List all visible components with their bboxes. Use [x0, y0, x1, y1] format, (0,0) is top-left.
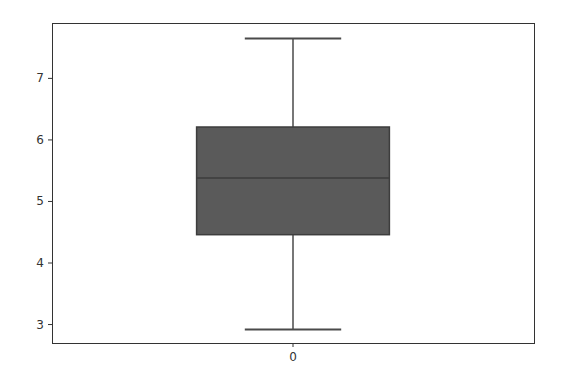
y-tick-label: 5 — [36, 194, 44, 208]
iqr-box — [197, 127, 390, 235]
x-axis: 0 — [289, 343, 297, 364]
x-tick-label: 0 — [289, 350, 297, 364]
box-plot: 34567 0 — [0, 0, 562, 379]
y-tick-label: 7 — [36, 71, 44, 85]
y-tick-label: 4 — [36, 256, 44, 270]
plot-area — [197, 38, 390, 329]
box-series-0 — [197, 38, 390, 329]
y-tick-label: 6 — [36, 133, 44, 147]
y-axis: 34567 — [36, 71, 52, 331]
y-tick-label: 3 — [36, 318, 44, 332]
